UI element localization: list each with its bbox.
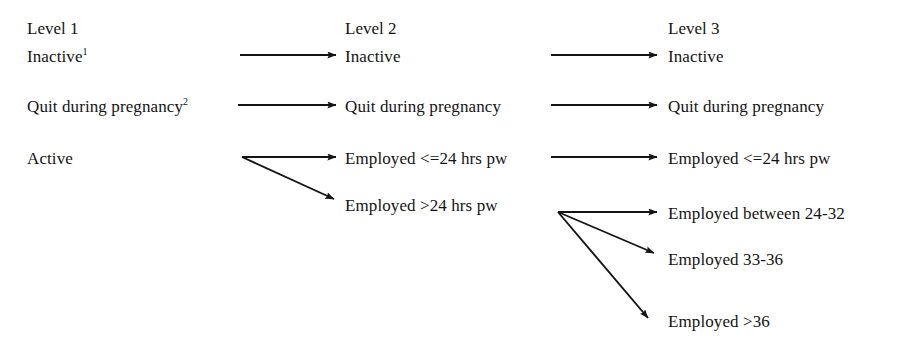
node-label: Employed <=24 hrs pw bbox=[345, 149, 507, 168]
column-header-level-3: Level 3 bbox=[668, 20, 719, 37]
node-level1-active: Active bbox=[27, 150, 73, 167]
node-level3-employed-le-24-hrs-pw: Employed <=24 hrs pw bbox=[668, 150, 830, 167]
node-level1-inactive: Inactive1 bbox=[27, 48, 88, 65]
node-label: Inactive bbox=[668, 47, 724, 66]
node-label: Inactive bbox=[27, 47, 83, 66]
e-l2-emp-gt24-to-l3-emp-33-36 bbox=[558, 212, 654, 253]
node-label: Active bbox=[27, 149, 73, 168]
node-label: Quit during pregnancy bbox=[27, 97, 183, 116]
node-label: Inactive bbox=[345, 47, 401, 66]
edge-group bbox=[238, 55, 657, 318]
node-level3-employed-gt-36: Employed >36 bbox=[668, 313, 770, 330]
footnote-marker-2: 2 bbox=[183, 96, 188, 107]
node-level3-employed-between-24-32: Employed between 24-32 bbox=[668, 205, 845, 222]
node-label: Employed >36 bbox=[668, 312, 770, 331]
node-level3-employed-33-36: Employed 33-36 bbox=[668, 251, 783, 268]
node-level2-employed-le-24-hrs-pw: Employed <=24 hrs pw bbox=[345, 150, 507, 167]
column-header-level-2: Level 2 bbox=[345, 20, 396, 37]
node-level3-inactive: Inactive bbox=[668, 48, 724, 65]
arrow-layer bbox=[0, 0, 905, 344]
node-label: Employed between 24-32 bbox=[668, 204, 845, 223]
node-label: Quit during pregnancy bbox=[345, 97, 501, 116]
node-label: Employed 33-36 bbox=[668, 250, 783, 269]
node-level1-quit-during-pregnancy: Quit during pregnancy2 bbox=[27, 98, 188, 115]
node-label: Quit during pregnancy bbox=[668, 97, 824, 116]
node-label: Employed >24 hrs pw bbox=[345, 196, 498, 215]
node-level2-quit-during-pregnancy: Quit during pregnancy bbox=[345, 98, 501, 115]
node-level2-employed-gt-24-hrs-pw: Employed >24 hrs pw bbox=[345, 197, 498, 214]
footnote-marker-1: 1 bbox=[83, 46, 88, 57]
column-header-level-1: Level 1 bbox=[27, 20, 78, 37]
e-l2-emp-gt24-to-l3-emp-gt36 bbox=[558, 212, 648, 318]
level-transition-diagram: Level 1 Level 2 Level 3 Inactive1 Quit d… bbox=[0, 0, 905, 344]
node-label: Employed <=24 hrs pw bbox=[668, 149, 830, 168]
e-l1-active-to-l2-emp-gt24 bbox=[242, 157, 334, 199]
node-level3-quit-during-pregnancy: Quit during pregnancy bbox=[668, 98, 824, 115]
node-level2-inactive: Inactive bbox=[345, 48, 401, 65]
